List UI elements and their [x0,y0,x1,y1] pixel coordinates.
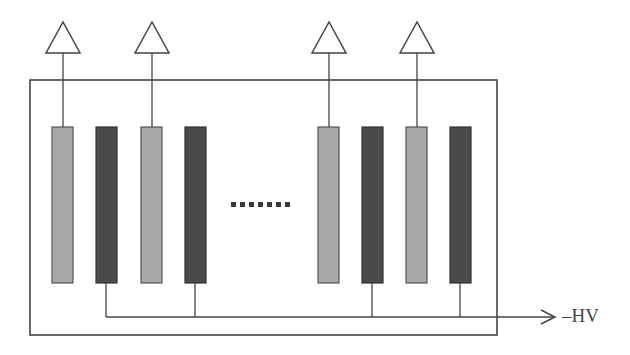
amplifier-2 [135,22,169,127]
hv-label: –HV [562,305,599,327]
amplifier-triangle-icon [312,22,346,53]
readout-electrode-1 [52,127,73,283]
readout-electrode-2 [141,127,162,283]
hv-electrode-2 [185,127,206,283]
amplifier-triangle-icon [46,22,80,53]
detector-diagram [0,0,630,355]
hv-electrode-3 [362,127,383,283]
readout-electrode-4 [406,127,427,283]
hv-electrode-1 [96,127,117,283]
hv-electrode-4 [450,127,471,283]
amplifier-3 [312,22,346,127]
ellipsis-dots [231,202,290,207]
amplifier-triangle-icon [135,22,169,53]
amplifier-triangle-icon [400,22,434,53]
amplifier-4 [400,22,434,127]
amplifier-1 [46,22,80,127]
readout-electrode-3 [318,127,339,283]
